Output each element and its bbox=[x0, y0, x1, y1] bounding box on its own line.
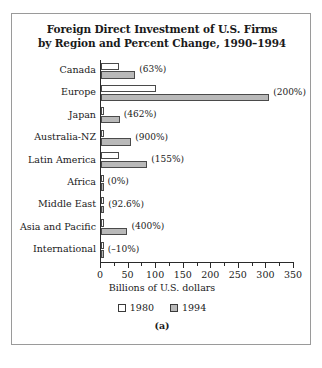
bar-1980-europe bbox=[101, 85, 156, 92]
legend-swatch-1980 bbox=[118, 304, 126, 312]
category-label-africa: Africa bbox=[0, 176, 96, 187]
figure-caption: (a) bbox=[12, 320, 312, 331]
x-tick-major bbox=[155, 263, 156, 268]
legend-swatch-1994 bbox=[170, 304, 178, 312]
x-tick-label: 350 bbox=[284, 269, 302, 280]
bar-1994-australia-nz bbox=[101, 138, 131, 145]
bar-1994-middle-east bbox=[101, 206, 104, 213]
legend-label-1994: 1994 bbox=[182, 302, 206, 313]
pct-label-middle-east: (92.6%) bbox=[108, 199, 144, 209]
bar-group-australia-nz: Australia-NZ (900%) bbox=[12, 127, 312, 149]
category-label-australia-nz: Australia-NZ bbox=[0, 131, 96, 142]
x-tick-label: 300 bbox=[256, 269, 274, 280]
legend-item-1994: 1994 bbox=[170, 302, 206, 313]
pct-label-international: (–10%) bbox=[108, 244, 140, 254]
pct-label-australia-nz: (900%) bbox=[135, 132, 168, 142]
x-tick-label: 200 bbox=[201, 269, 219, 280]
x-tick-major bbox=[128, 263, 129, 268]
category-label-international: International bbox=[0, 243, 96, 254]
x-tick-minor bbox=[114, 263, 115, 266]
bar-1994-latin-america bbox=[101, 161, 147, 168]
bar-1980-canada bbox=[101, 63, 119, 70]
bar-1980-latin-america bbox=[101, 152, 119, 159]
bar-group-middle-east: Middle East (92.6%) bbox=[12, 194, 312, 216]
x-tick-major bbox=[210, 263, 211, 268]
bar-1994-africa bbox=[101, 183, 104, 190]
x-tick-major bbox=[238, 263, 239, 268]
chart-title-line-2: by Region and Percent Change, 1990–1994 bbox=[12, 37, 312, 51]
pct-label-africa: (0%) bbox=[108, 176, 129, 186]
chart-title-line-1: Foreign Direct Investment of U.S. Firms bbox=[12, 23, 312, 37]
legend-label-1980: 1980 bbox=[130, 302, 154, 313]
x-tick-label: 250 bbox=[229, 269, 247, 280]
legend: 1980 1994 bbox=[12, 302, 312, 313]
pct-label-europe: (200%) bbox=[273, 87, 306, 97]
x-tick-major bbox=[100, 263, 101, 268]
bar-1980-asia-and-pacific bbox=[101, 219, 104, 226]
x-tick-minor bbox=[279, 263, 280, 266]
pct-label-asia-and-pacific: (400%) bbox=[131, 221, 164, 231]
x-tick-major bbox=[265, 263, 266, 268]
figure-frame: Foreign Direct Investment of U.S. Firms … bbox=[11, 13, 311, 345]
pct-label-latin-america: (155%) bbox=[151, 154, 184, 164]
plot-area: Canada (63%) Europe (200%) Japan (462%) bbox=[12, 60, 312, 280]
category-label-asia-and-pacific: Asia and Pacific bbox=[0, 221, 96, 232]
category-label-middle-east: Middle East bbox=[0, 198, 96, 209]
pct-label-canada: (63%) bbox=[139, 64, 166, 74]
chart-title: Foreign Direct Investment of U.S. Firms … bbox=[12, 23, 312, 50]
x-tick-minor bbox=[224, 263, 225, 266]
bar-1994-international bbox=[101, 250, 104, 257]
bar-group-africa: Africa (0%) bbox=[12, 172, 312, 194]
bar-group-canada: Canada (63%) bbox=[12, 60, 312, 82]
x-tick-label: 0 bbox=[97, 269, 103, 280]
x-tick-label: 100 bbox=[146, 269, 164, 280]
x-tick-minor bbox=[169, 263, 170, 266]
bar-1980-japan bbox=[101, 107, 104, 114]
category-label-latin-america: Latin America bbox=[0, 154, 96, 165]
x-tick-major bbox=[183, 263, 184, 268]
category-label-japan: Japan bbox=[0, 109, 96, 120]
x-tick-major bbox=[293, 263, 294, 268]
category-label-canada: Canada bbox=[0, 64, 96, 75]
bar-1980-australia-nz bbox=[101, 130, 104, 137]
legend-item-1980: 1980 bbox=[118, 302, 154, 313]
x-tick-minor bbox=[141, 263, 142, 266]
bar-group-japan: Japan (462%) bbox=[12, 105, 312, 127]
x-tick-label: 150 bbox=[174, 269, 192, 280]
bar-group-europe: Europe (200%) bbox=[12, 82, 312, 104]
bar-group-latin-america: Latin America (155%) bbox=[12, 150, 312, 172]
bar-1980-middle-east bbox=[101, 197, 104, 204]
bar-1994-europe bbox=[101, 94, 269, 101]
bar-1994-japan bbox=[101, 116, 120, 123]
bar-1994-asia-and-pacific bbox=[101, 228, 127, 235]
x-tick-minor bbox=[197, 263, 198, 266]
x-axis-title: Billions of U.S. dollars bbox=[12, 282, 312, 293]
pct-label-japan: (462%) bbox=[124, 109, 157, 119]
bar-1980-africa bbox=[101, 175, 104, 182]
bar-1994-canada bbox=[101, 71, 135, 78]
x-tick-label: 50 bbox=[122, 269, 134, 280]
x-tick-minor bbox=[252, 263, 253, 266]
bar-group-asia-and-pacific: Asia and Pacific (400%) bbox=[12, 217, 312, 239]
bar-group-international: International (–10%) bbox=[12, 239, 312, 261]
bar-1980-international bbox=[101, 242, 104, 249]
category-label-europe: Europe bbox=[0, 86, 96, 97]
